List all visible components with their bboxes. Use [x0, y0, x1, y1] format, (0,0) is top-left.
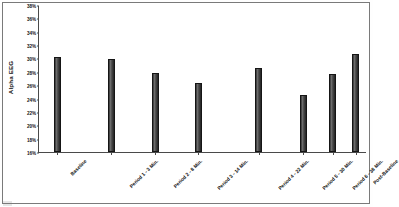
plot-area: 38%36%34%32%30%28%26%24%22%20%18%16%Base…: [38, 6, 366, 153]
y-axis-title: Alpha EEG: [7, 46, 14, 110]
scan-artifact: [3, 201, 12, 206]
bar: [352, 54, 359, 152]
y-axis-tick-mark: [37, 112, 40, 113]
bar: [329, 74, 336, 152]
bar: [152, 73, 159, 152]
y-axis-tick-mark: [37, 139, 40, 140]
y-axis-tick-mark: [37, 46, 40, 47]
x-axis-tick-mark: [57, 152, 58, 155]
y-axis-tick-mark: [37, 126, 40, 127]
x-axis-tick-mark: [198, 152, 199, 155]
y-axis-tick-mark: [37, 86, 40, 87]
bar: [255, 68, 262, 152]
plot-inner: 38%36%34%32%30%28%26%24%22%20%18%16%Base…: [39, 6, 366, 152]
y-axis-tick-mark: [37, 32, 40, 33]
x-axis-tick-mark: [303, 152, 304, 155]
x-axis-tick-mark: [356, 152, 357, 155]
x-axis-tick-mark: [155, 152, 156, 155]
bar: [300, 95, 307, 152]
x-axis-tick-mark: [259, 152, 260, 155]
y-axis-tick-mark: [37, 99, 40, 100]
y-axis-tick-mark: [37, 72, 40, 73]
bar: [108, 59, 115, 152]
bar: [195, 83, 202, 152]
y-axis-tick-mark: [37, 6, 40, 7]
y-axis-tick-mark: [37, 19, 40, 20]
bar: [54, 57, 61, 152]
y-axis-tick-mark: [37, 153, 40, 154]
x-axis-tick-mark: [333, 152, 334, 155]
x-axis-tick-mark: [111, 152, 112, 155]
y-axis-tick-mark: [37, 59, 40, 60]
